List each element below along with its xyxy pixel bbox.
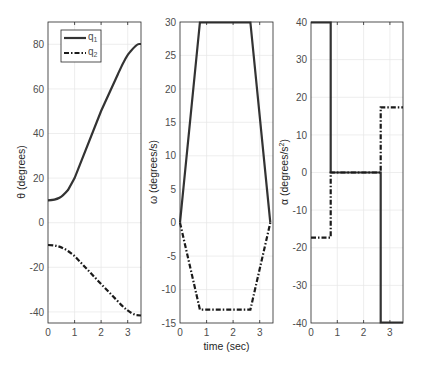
xtick-label: 1 <box>72 327 78 338</box>
ytick-label: 0 <box>170 217 176 228</box>
ytick-label: 25 <box>165 50 177 61</box>
ytick-label: 5 <box>170 184 176 195</box>
ytick-label: -40 <box>293 318 308 329</box>
xtick-label: 1 <box>335 327 341 338</box>
ytick-label: -15 <box>162 318 177 329</box>
axes-box <box>180 22 273 323</box>
y-axis-label: θ (degrees) <box>15 145 27 199</box>
xtick-label: 0 <box>45 327 51 338</box>
ytick-label: 20 <box>165 84 177 95</box>
ytick-label: -10 <box>162 284 177 295</box>
figure: 0 1 2 3 -40 -20 0 20 40 60 80 θ (degrees… <box>0 0 424 369</box>
legend: q1 q2 <box>61 30 101 62</box>
ytick-label: 0 <box>38 217 44 228</box>
ytick-label: -20 <box>30 262 45 273</box>
ytick-label: 30 <box>165 17 177 28</box>
y-axis-label: ω (degrees/s) <box>147 140 159 204</box>
ytick-label: -10 <box>293 205 308 216</box>
xtick-label: 1 <box>204 327 210 338</box>
ytick-label: 40 <box>33 128 45 139</box>
xtick-label: 0 <box>308 327 314 338</box>
y-axis-label: α (degrees/s2) <box>278 139 290 205</box>
ytick-label: 0 <box>301 167 307 178</box>
xtick-label: 2 <box>230 327 236 338</box>
ytick-label: 10 <box>296 130 308 141</box>
ytick-label: 30 <box>296 54 308 65</box>
x-axis-label: time (sec) <box>203 340 249 352</box>
ytick-label: -40 <box>30 307 45 318</box>
xtick-label: 3 <box>387 327 393 338</box>
series-q2 <box>180 223 270 310</box>
panel-alpha: 0 1 2 3 -40 -30 -20 -10 0 10 20 30 40 α … <box>278 17 403 338</box>
ytick-label: 15 <box>165 117 177 128</box>
ytick-label: 10 <box>165 150 177 161</box>
ytick-label: 20 <box>296 92 308 103</box>
panel-omega: 0 1 2 3 -15 -10 -5 0 5 10 15 20 25 30 ω … <box>147 17 273 352</box>
ytick-label: 20 <box>33 173 45 184</box>
ytick-label: -5 <box>167 251 176 262</box>
panel-theta: 0 1 2 3 -40 -20 0 20 40 60 80 θ (degrees… <box>15 22 141 338</box>
ytick-label: 60 <box>33 84 45 95</box>
ytick-label: 80 <box>33 39 45 50</box>
ytick-label: -20 <box>293 242 308 253</box>
xtick-label: 2 <box>98 327 104 338</box>
xtick-label: 0 <box>177 327 183 338</box>
xtick-label: 3 <box>125 327 131 338</box>
ytick-label: 40 <box>296 17 308 28</box>
xtick-label: 2 <box>361 327 367 338</box>
ytick-label: -30 <box>293 280 308 291</box>
grid <box>180 22 273 323</box>
xtick-label: 3 <box>257 327 263 338</box>
